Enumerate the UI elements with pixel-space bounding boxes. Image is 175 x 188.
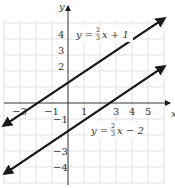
svg-text:−4: −4 — [53, 162, 68, 173]
equation-label-line1: y = 2 3 x + 1 — [73, 26, 133, 42]
line2-upper-arrow — [6, 66, 165, 173]
grid — [4, 20, 164, 184]
svg-text:4: 4 — [58, 29, 64, 40]
svg-text:y =: y = — [75, 29, 93, 40]
svg-text:−3: −3 — [53, 146, 68, 157]
svg-text:1: 1 — [81, 106, 87, 117]
svg-text:2: 2 — [96, 26, 100, 34]
coordinate-plane: y x −3 −1 1 3 4 5 4 3 2 −1 −3 −4 y = 2 3… — [0, 0, 175, 188]
svg-text:3: 3 — [111, 130, 115, 138]
equation-label-line2: y = 2 3 x − 2 — [88, 122, 144, 138]
svg-text:3: 3 — [113, 106, 119, 117]
svg-text:x − 2: x − 2 — [117, 125, 144, 136]
svg-text:4: 4 — [129, 106, 135, 117]
x-axis-label: x — [171, 108, 175, 119]
svg-text:x + 1: x + 1 — [102, 29, 129, 40]
y-axis-label: y — [58, 1, 65, 12]
svg-text:5: 5 — [145, 106, 151, 117]
y-tick-labels: 4 3 2 −1 −3 −4 — [53, 29, 68, 173]
svg-text:3: 3 — [58, 45, 64, 56]
svg-text:2: 2 — [111, 122, 115, 130]
svg-text:3: 3 — [96, 34, 100, 42]
svg-text:2: 2 — [58, 61, 64, 72]
svg-text:−1: −1 — [53, 114, 68, 125]
svg-text:y =: y = — [90, 125, 108, 136]
x-tick-labels: −3 −1 1 3 4 5 — [12, 106, 151, 117]
